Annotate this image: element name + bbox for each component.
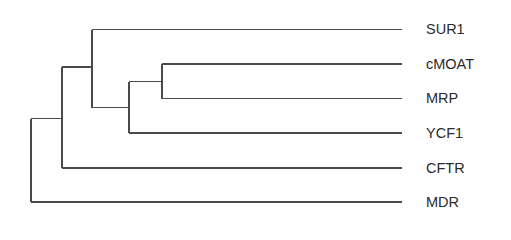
leaf-label-mrp: MRP	[426, 90, 458, 106]
leaf-label-cmoat: cMOAT	[426, 56, 474, 72]
leaf-label-sur1: SUR1	[426, 21, 465, 37]
leaf-label-ycf1: YCF1	[426, 125, 463, 141]
leaf-label-mdr: MDR	[426, 194, 459, 210]
leaf-label-cftr: CFTR	[426, 160, 465, 176]
branches	[31, 30, 402, 203]
